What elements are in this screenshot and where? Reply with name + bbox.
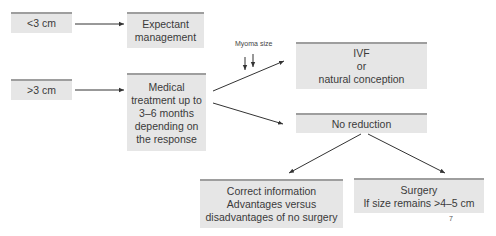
- box-medical-treatment: Medical treatment up to 3–6 months depen…: [127, 73, 206, 151]
- arrow-no-reduction-to-correct-info: [289, 134, 361, 173]
- box-text: Medical: [148, 81, 184, 94]
- box-text: or: [357, 60, 366, 73]
- box-no-reduction: No reduction: [296, 113, 427, 133]
- box-text: depending on: [135, 120, 199, 133]
- box-correct-information: Correct information Advantages versus di…: [200, 179, 343, 228]
- box-text: If size remains >4–5 cm: [363, 197, 474, 210]
- box-text: natural conception: [319, 73, 405, 86]
- box-large-myoma: >3 cm: [11, 79, 72, 100]
- box-text: No reduction: [332, 118, 392, 131]
- box-text: treatment up to: [131, 94, 202, 107]
- box-text: Surgery: [401, 184, 438, 197]
- arrow-medical-to-ivf: [213, 61, 284, 91]
- box-text: disadvantages of no surgery: [206, 211, 338, 224]
- box-text: 3–6 months: [139, 107, 194, 120]
- box-text: management: [135, 31, 196, 44]
- box-small-myoma: <3 cm: [11, 12, 72, 33]
- page-number: 7: [449, 215, 453, 222]
- box-surgery: Surgery If size remains >4–5 cm: [354, 178, 484, 213]
- box-text: the response: [136, 133, 197, 146]
- box-ivf: IVF or natural conception: [296, 42, 427, 89]
- arrow-medical-to-no-reduction: [213, 103, 283, 124]
- box-text: <3 cm: [27, 17, 56, 30]
- box-expectant-management: Expectant management: [127, 12, 204, 48]
- box-text: Correct information: [227, 185, 316, 198]
- box-text: Expectant: [142, 18, 189, 31]
- box-text: Advantages versus: [227, 198, 316, 211]
- arrow-no-reduction-to-surgery: [368, 134, 445, 173]
- box-text: >3 cm: [27, 84, 56, 97]
- box-text: IVF: [353, 47, 369, 60]
- myoma-size-label: Myoma size: [235, 40, 272, 47]
